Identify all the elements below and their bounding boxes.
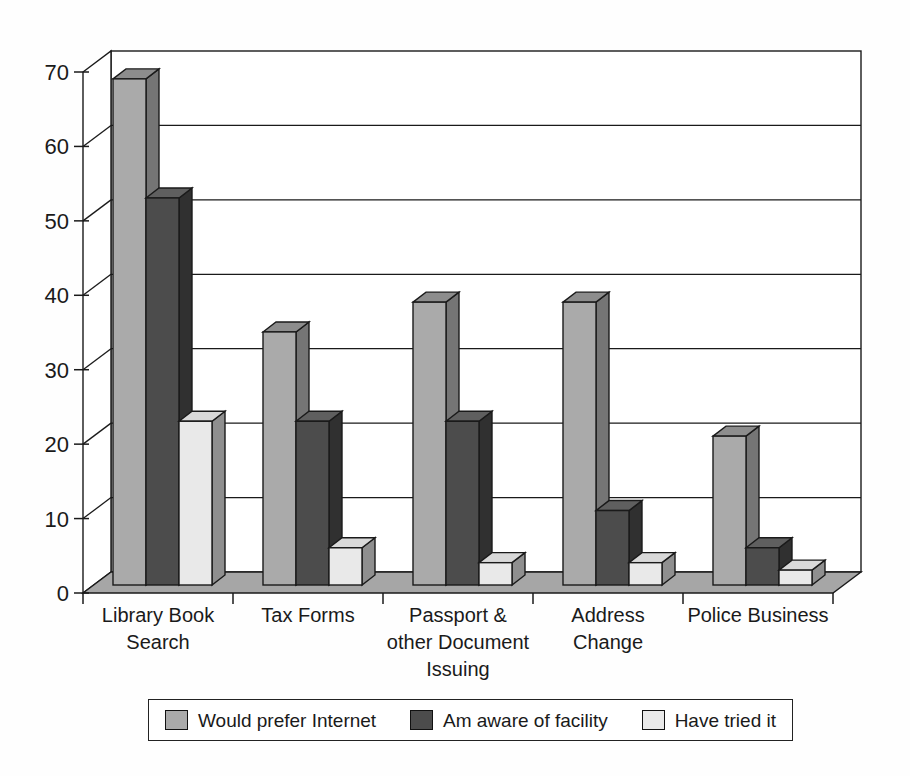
- y-tick-label-40: 40: [45, 283, 69, 308]
- chart-legend: Would prefer Internet Am aware of facili…: [148, 699, 793, 741]
- bar-address-change--am-aware-of-facility: [596, 511, 629, 585]
- x-category-label-passport-other-document-issuing: Passport &other DocumentIssuing: [387, 604, 530, 680]
- y-tick-label-70: 70: [45, 60, 69, 85]
- y-tick-label-60: 60: [45, 134, 69, 159]
- y-tick-label-30: 30: [45, 358, 69, 383]
- bar-passport-other-document-issuing--am-aware-of-facility: [446, 421, 479, 585]
- legend-item-would-prefer-internet: Would prefer Internet: [165, 710, 376, 730]
- x-category-label-address-change: AddressChange: [571, 604, 644, 653]
- figure-3d-bar-chart: 010203040506070Library BookSearchTax For…: [0, 0, 910, 776]
- x-category-label-police-business: Police Business: [687, 604, 828, 626]
- legend-label-have-tried-it: Have tried it: [675, 711, 776, 730]
- bar-passport-other-document-issuing--have-tried-it: [479, 563, 512, 585]
- legend-item-am-aware-of-facility: Am aware of facility: [410, 710, 608, 730]
- legend-item-have-tried-it: Have tried it: [642, 710, 776, 730]
- bar-address-change--have-tried-it: [629, 563, 662, 585]
- legend-label-would-prefer-internet: Would prefer Internet: [198, 711, 376, 730]
- bar-address-change--would-prefer-internet: [563, 302, 596, 585]
- x-category-label-tax-forms: Tax Forms: [261, 604, 354, 626]
- legend-swatch-am-aware-of-facility: [410, 710, 433, 730]
- legend-swatch-have-tried-it: [642, 710, 665, 730]
- bar-tax-forms--would-prefer-internet: [263, 332, 296, 585]
- bar-library-book-search--am-aware-of-facility: [146, 198, 179, 585]
- y-tick-label-10: 10: [45, 507, 69, 532]
- y-tick-label-50: 50: [45, 209, 69, 234]
- legend-label-am-aware-of-facility: Am aware of facility: [443, 711, 608, 730]
- bar-tax-forms--am-aware-of-facility: [296, 421, 329, 585]
- bar-side-library-book-search--have-tried-it: [212, 411, 225, 585]
- bar-passport-other-document-issuing--would-prefer-internet: [413, 302, 446, 585]
- bar-library-book-search--have-tried-it: [179, 421, 212, 585]
- bar-police-business--am-aware-of-facility: [746, 548, 779, 585]
- bar-library-book-search--would-prefer-internet: [113, 79, 146, 585]
- bar-tax-forms--have-tried-it: [329, 548, 362, 585]
- y-tick-label-20: 20: [45, 432, 69, 457]
- chart-plot-area: 010203040506070Library BookSearchTax For…: [0, 0, 910, 696]
- x-category-label-library-book-search: Library BookSearch: [102, 604, 215, 653]
- left-wall: [83, 51, 111, 593]
- legend-swatch-would-prefer-internet: [165, 710, 188, 730]
- bar-police-business--have-tried-it: [779, 570, 812, 585]
- bar-police-business--would-prefer-internet: [713, 436, 746, 585]
- y-tick-label-0: 0: [57, 581, 69, 606]
